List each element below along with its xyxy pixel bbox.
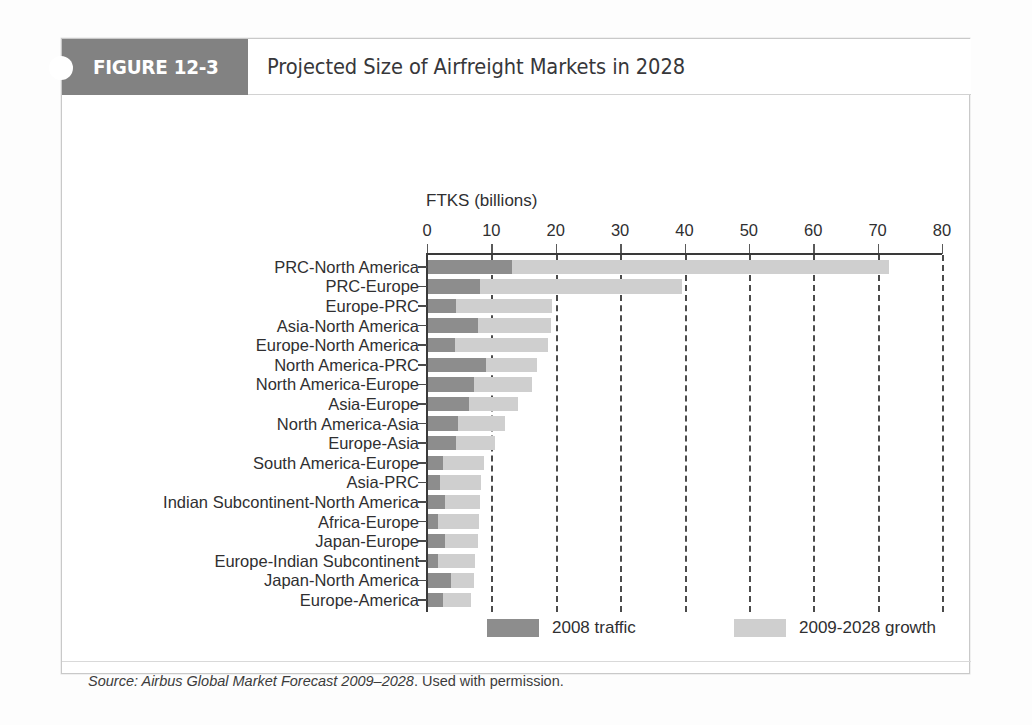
bar-row	[428, 397, 518, 412]
y-tick-mark	[418, 482, 427, 484]
category-label: Asia-PRC	[347, 474, 419, 491]
figure-title: Projected Size of Airfreight Markets in …	[267, 39, 685, 95]
figure-page: FIGURE 12-3 Projected Size of Airfreight…	[0, 0, 1032, 725]
y-tick-mark	[418, 599, 427, 601]
bar-row	[428, 495, 480, 510]
category-label: Europe-PRC	[325, 298, 419, 315]
bar-row	[428, 593, 471, 608]
bar-segment-growth	[469, 397, 518, 412]
bar-segment-traffic	[428, 397, 469, 412]
bar-row	[428, 554, 475, 569]
x-tick-label: 0	[422, 221, 431, 240]
chart-legend: 2008 traffic2009-2028 growth	[62, 618, 971, 644]
figure-number-label: FIGURE 12-3	[93, 55, 219, 79]
bar-segment-growth	[443, 593, 471, 608]
chart-plot-area: FTKS (billions) 01020304050607080 PRC-No…	[62, 95, 971, 674]
bar-segment-traffic	[428, 377, 474, 392]
figure-number-tab: FIGURE 12-3	[62, 39, 248, 95]
bar-segment-growth	[438, 554, 475, 569]
bar-segment-traffic	[428, 318, 478, 333]
figure-frame: FIGURE 12-3 Projected Size of Airfreight…	[61, 38, 970, 674]
bar-row	[428, 514, 479, 529]
source-note: Source: Airbus Global Market Forecast 20…	[88, 673, 564, 689]
bar-segment-growth	[438, 514, 479, 529]
bar-row	[428, 260, 889, 275]
category-label: Europe-America	[300, 592, 419, 609]
legend-item: 2008 traffic	[487, 618, 636, 638]
y-tick-mark	[418, 501, 427, 503]
y-tick-mark	[418, 286, 427, 288]
gridline	[685, 255, 687, 612]
source-divider	[62, 661, 971, 662]
category-label: PRC-Europe	[325, 278, 419, 295]
bar-segment-growth	[456, 299, 552, 314]
bar-row	[428, 436, 495, 451]
bar-row	[428, 573, 474, 588]
x-tick-mark	[942, 244, 943, 254]
bar-segment-traffic	[428, 593, 443, 608]
bar-row	[428, 456, 484, 471]
y-tick-mark	[418, 344, 427, 346]
x-tick-label: 30	[611, 221, 629, 240]
bar-segment-traffic	[428, 456, 443, 471]
legend-label: 2008 traffic	[552, 618, 636, 638]
category-label: Japan-Europe	[315, 533, 419, 550]
bar-segment-traffic	[428, 260, 512, 275]
bar-row	[428, 318, 551, 333]
gridline	[878, 255, 880, 612]
bar-segment-growth	[480, 279, 681, 294]
bar-row	[428, 534, 478, 549]
bar-segment-growth	[478, 318, 551, 333]
y-tick-mark	[418, 462, 427, 464]
bar-segment-traffic	[428, 554, 438, 569]
bar-row	[428, 358, 537, 373]
y-tick-mark	[418, 266, 427, 268]
bar-segment-growth	[451, 573, 474, 588]
bar-row	[428, 338, 548, 353]
gridline	[620, 255, 622, 612]
bar-row	[428, 299, 552, 314]
x-tick-label: 80	[933, 221, 951, 240]
x-tick-label: 70	[868, 221, 886, 240]
category-label: Europe-Indian Subcontinent	[214, 553, 419, 570]
bar-row	[428, 279, 682, 294]
category-label: Japan-North America	[264, 572, 419, 589]
bar-segment-traffic	[428, 279, 480, 294]
category-label: Africa-Europe	[318, 514, 419, 531]
bar-segment-traffic	[428, 573, 451, 588]
bar-segment-traffic	[428, 358, 486, 373]
bar-segment-traffic	[428, 475, 440, 490]
bar-segment-growth	[455, 338, 548, 353]
bar-segment-growth	[512, 260, 889, 275]
category-label: North America-Asia	[277, 416, 419, 433]
x-tick-label: 50	[740, 221, 758, 240]
y-tick-mark	[418, 580, 427, 582]
category-label: Europe-Asia	[328, 435, 419, 452]
gridline	[942, 255, 944, 612]
gridline	[813, 255, 815, 612]
gridline	[749, 255, 751, 612]
y-tick-mark	[418, 540, 427, 542]
y-tick-mark	[418, 521, 427, 523]
y-tick-mark	[418, 423, 427, 425]
bar-row	[428, 416, 505, 431]
bar-segment-traffic	[428, 436, 456, 451]
tab-notch-decoration	[49, 56, 73, 80]
bar-row	[428, 377, 532, 392]
bar-segment-growth	[440, 475, 481, 490]
bar-segment-growth	[443, 456, 484, 471]
gridline	[556, 255, 558, 612]
bar-segment-traffic	[428, 514, 438, 529]
legend-item: 2009-2028 growth	[734, 618, 936, 638]
bar-segment-traffic	[428, 299, 456, 314]
bar-segment-growth	[445, 534, 478, 549]
legend-swatch	[734, 619, 786, 637]
x-axis-title: FTKS (billions)	[426, 191, 537, 211]
x-tick-label: 10	[482, 221, 500, 240]
bar-segment-traffic	[428, 338, 455, 353]
figure-header: FIGURE 12-3 Projected Size of Airfreight…	[62, 39, 971, 95]
x-axis-tick-labels: 01020304050607080	[62, 221, 971, 243]
y-tick-mark	[418, 403, 427, 405]
x-tick-label: 20	[547, 221, 565, 240]
category-label: North America-PRC	[274, 357, 419, 374]
